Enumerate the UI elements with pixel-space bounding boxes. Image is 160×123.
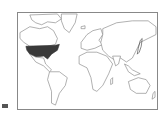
region-africa: [79, 52, 113, 91]
region-madagascar: [111, 78, 113, 85]
region-southeast-asia: [124, 64, 140, 76]
region-europe: [81, 29, 103, 51]
region-united-states: [26, 44, 60, 59]
world-map-svg: [18, 13, 157, 109]
region-new-zealand: [152, 91, 155, 99]
region-australia: [128, 78, 150, 94]
region-india: [113, 56, 121, 66]
region-iceland: [81, 26, 85, 29]
legend-marker: [2, 104, 8, 108]
region-canada: [20, 27, 57, 47]
region-south-america: [48, 72, 68, 105]
region-greenland: [61, 14, 77, 33]
region-asia: [101, 21, 156, 62]
world-map: [17, 12, 158, 110]
region-arctic-islands: [30, 14, 62, 25]
